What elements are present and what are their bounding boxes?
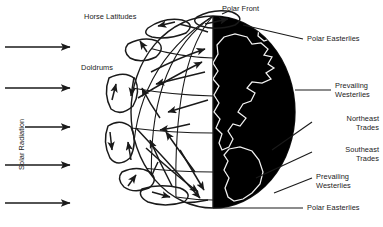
label-polar-easterlies-north: Polar Easterlies — [307, 34, 360, 43]
cell-arrow-s1 — [110, 132, 112, 150]
label-polar-easterlies-south: Polar Easterlies — [307, 203, 360, 212]
leader-prevailing-westerlies-south — [274, 178, 312, 193]
label-solar-radiation: Solar Radiation — [17, 119, 26, 170]
label-horse-latitudes: Horse Latitudes — [84, 12, 137, 21]
label-polar-front: Polar Front — [222, 4, 259, 13]
cell-arrow-n4 — [112, 84, 116, 100]
solar-radiation-arrow-group — [5, 47, 70, 203]
label-prevailing-westerlies-south: Prevailing Westerlies — [316, 172, 351, 190]
night-hemisphere — [213, 16, 295, 208]
label-southeast-trades: Southeast Trades — [316, 145, 379, 163]
label-line-2: Trades — [316, 154, 379, 163]
label-line-2: Westerlies — [316, 181, 351, 190]
cell-arrow-s4 — [152, 192, 170, 197]
label-prevailing-westerlies-north: Prevailing Westerlies — [335, 81, 370, 99]
label-line-1: Northeast — [316, 114, 379, 123]
diagram-canvas: Solar Radiation Horse Latitudes Doldrums… — [0, 0, 383, 227]
label-line-1: Prevailing — [316, 172, 351, 181]
label-northeast-trades: Northeast Trades — [316, 114, 379, 132]
cell-arrow-n2 — [140, 41, 147, 52]
label-line-1: Southeast — [316, 145, 379, 154]
label-doldrums: Doldrums — [81, 63, 113, 72]
cell-arrow-s3 — [128, 175, 136, 186]
label-line-1: Prevailing — [335, 81, 370, 90]
cell-arrow-s2 — [128, 142, 131, 160]
cell-arrow-n1 — [158, 22, 175, 26]
label-line-2: Westerlies — [335, 90, 370, 99]
label-line-2: Trades — [316, 123, 379, 132]
